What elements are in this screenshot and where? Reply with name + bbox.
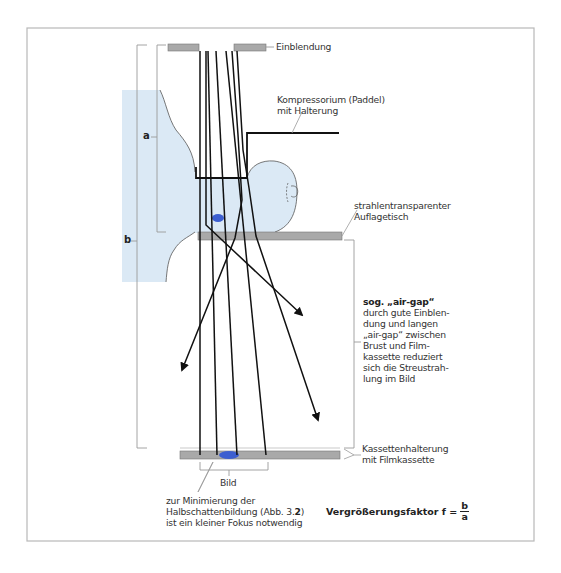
formula-prefix: Vergrößerungsfaktor f =: [326, 506, 457, 517]
magnification-mammography-diagram: Einblendung Kompressorium (Paddel) mit H…: [0, 0, 561, 573]
air-gap-text-2: dung und langen: [363, 318, 438, 329]
focus-label-line2: Halbschattenbildung (Abb. 3.2): [166, 506, 304, 517]
formula-fraction: b a: [460, 501, 469, 522]
air-gap-text-4: Brust und Film-: [363, 340, 430, 351]
air-gap-text-7: lung im Bild: [363, 373, 415, 384]
magnification-formula: Vergrößerungsfaktor f = b a: [326, 501, 469, 522]
table-label-line1: strahlentransparenter: [354, 200, 451, 211]
cassette-label-line1: Kassettenhalterung: [362, 443, 448, 454]
dimension-b-label: b: [124, 234, 131, 245]
cassette-label-line2: mit Filmkassette: [362, 454, 434, 465]
cassette-holder: [180, 448, 361, 459]
air-gap-text-5: kassette reduziert: [363, 351, 442, 362]
air-gap-text-6: sich die Streustrah-: [363, 362, 449, 373]
focus-label-line1: zur Minimierung der: [166, 495, 255, 506]
diagram-graphics: [0, 0, 561, 573]
compressor-label-line2: mit Halterung: [277, 105, 338, 116]
focus-label-line2-post: ): [301, 506, 304, 517]
focus-label-line3: ist ein kleiner Fokus notwendig: [166, 517, 302, 528]
image-label: Bild: [220, 477, 236, 488]
collimator-plates: [168, 44, 274, 51]
air-gap-text-1: durch gute Einblen-: [363, 307, 449, 318]
formula-denominator: a: [461, 512, 467, 522]
image-focus: [219, 451, 239, 459]
air-gap-title: sog. „air-gap“: [363, 296, 434, 307]
air-gap-bracket: [344, 240, 361, 448]
air-gap-text-3: „air-gap“ zwischen: [363, 329, 446, 340]
primary-beam-lines: [200, 51, 266, 455]
lesion-focus: [212, 214, 224, 222]
table-label-line2: Auflagetisch: [354, 211, 408, 222]
compressor-label-line1: Kompressorium (Paddel): [277, 94, 385, 105]
collimator-label: Einblendung: [276, 41, 331, 52]
focus-label-line2-pre: Halbschattenbildung (Abb. 3.: [166, 506, 295, 517]
dimension-a-label: a: [143, 130, 150, 141]
